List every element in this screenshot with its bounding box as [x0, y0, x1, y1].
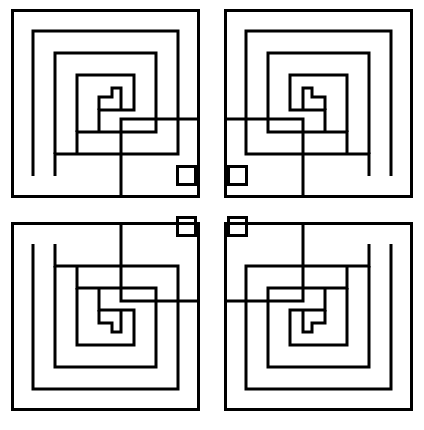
meander-pattern-svg: Four-fold symmetric Greek-key meander pa… [0, 0, 424, 430]
meander-figure-root: Four-fold symmetric Greek-key meander pa… [0, 0, 424, 430]
